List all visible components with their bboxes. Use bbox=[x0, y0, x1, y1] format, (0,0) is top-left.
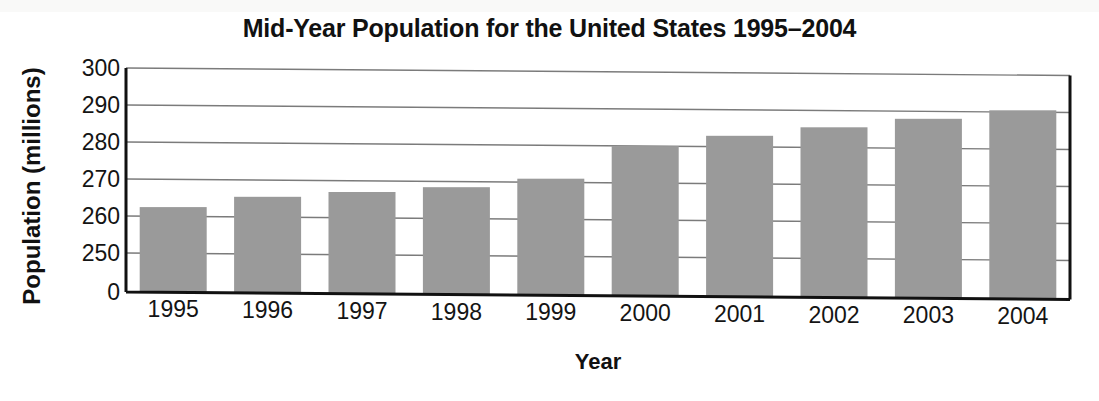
y-tick-label: 260 bbox=[50, 205, 120, 228]
y-tick-label: 270 bbox=[50, 168, 120, 191]
scan-texture bbox=[0, 0, 1099, 12]
bar bbox=[517, 179, 584, 296]
x-tick-label: 1997 bbox=[315, 298, 409, 324]
y-tick-label: 300 bbox=[50, 57, 120, 80]
x-tick-label: 2003 bbox=[881, 302, 975, 328]
plot-area bbox=[126, 62, 1070, 294]
x-axis-title: Year bbox=[126, 349, 1070, 375]
x-tick-label: 2000 bbox=[598, 300, 692, 326]
y-axis-tick-labels: 3002902802702602500 bbox=[48, 0, 120, 401]
bar bbox=[612, 146, 679, 296]
x-tick-label: 1996 bbox=[220, 297, 314, 323]
bar bbox=[801, 127, 868, 297]
bar bbox=[140, 207, 207, 292]
x-axis-tick-labels: 1995199619971998199920002001200220032004 bbox=[126, 296, 1070, 330]
gridline bbox=[126, 68, 1070, 76]
x-tick-label: 2002 bbox=[787, 302, 881, 328]
gridline bbox=[126, 105, 1070, 113]
bar-chart-svg bbox=[126, 62, 1070, 294]
chart-title: Mid-Year Population for the United State… bbox=[0, 14, 1099, 43]
bar bbox=[329, 192, 396, 294]
y-tick-label: 0 bbox=[50, 281, 120, 304]
chart-figure: Mid-Year Population for the United State… bbox=[0, 0, 1099, 401]
x-tick-label: 1995 bbox=[126, 296, 220, 322]
bar bbox=[423, 187, 490, 294]
bar bbox=[895, 119, 962, 299]
y-tick-label: 250 bbox=[50, 242, 120, 265]
x-tick-label: 1998 bbox=[409, 299, 503, 325]
x-tick-label: 2001 bbox=[692, 301, 786, 327]
bar bbox=[706, 136, 773, 297]
y-axis-title: Population (millions) bbox=[18, 51, 46, 321]
bar bbox=[989, 110, 1056, 299]
bars bbox=[140, 110, 1057, 299]
y-tick-label: 290 bbox=[50, 94, 120, 117]
x-tick-label: 1999 bbox=[504, 299, 598, 325]
bar bbox=[234, 197, 301, 293]
y-tick-label: 280 bbox=[50, 131, 120, 154]
x-tick-label: 2004 bbox=[976, 303, 1070, 329]
